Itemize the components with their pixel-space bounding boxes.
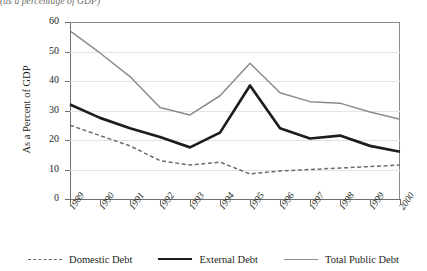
figure-title-text: (as a percentage of GDP)	[0, 0, 180, 6]
y-tick-label: 0	[19, 193, 59, 203]
legend-swatch-icon	[284, 259, 318, 260]
legend-label: Total Public Debt	[325, 254, 399, 265]
legend-swatch-icon	[158, 258, 192, 260]
legend-label: Domestic Debt	[69, 254, 132, 265]
series-line-external-debt	[70, 85, 400, 151]
figure-title-cropped: (as a percentage of GDP)	[0, 0, 180, 8]
series-lines	[70, 22, 400, 199]
y-tick-label: 50	[19, 46, 59, 56]
series-line-total-public-debt	[70, 31, 400, 120]
legend-item-total-public-debt: Total Public Debt	[284, 254, 399, 265]
chart-figure: (as a percentage of GDP) As a Percent of…	[0, 0, 427, 271]
legend-item-domestic-debt: Domestic Debt	[28, 254, 132, 265]
series-line-domestic-debt	[70, 125, 400, 174]
legend-swatch-icon	[28, 259, 62, 260]
y-tick-label: 30	[19, 105, 59, 115]
y-tick-label: 20	[19, 134, 59, 144]
chart-legend: Domestic DebtExternal DebtTotal Public D…	[0, 248, 427, 270]
legend-item-external-debt: External Debt	[158, 254, 258, 265]
y-tick-label: 10	[19, 164, 59, 174]
y-tick-label: 40	[19, 75, 59, 85]
y-tick-label: 60	[19, 16, 59, 26]
plot-area	[70, 22, 400, 199]
legend-label: External Debt	[199, 254, 258, 265]
